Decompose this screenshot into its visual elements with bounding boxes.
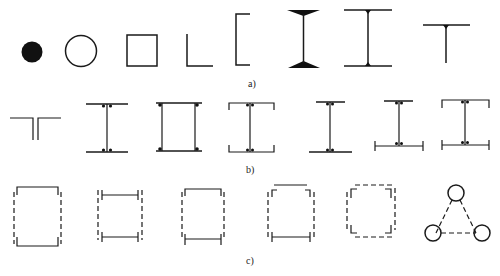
double-angle-t-shape	[10, 118, 61, 140]
row-a: a)	[22, 10, 471, 90]
channel-web-i-shape	[229, 103, 274, 152]
two-i-laced-shape	[98, 190, 142, 242]
row-c-label: c)	[246, 255, 254, 267]
welded-i-shape	[86, 104, 128, 152]
four-angles-laced-shape	[347, 185, 395, 237]
channel-i-laced-shape	[182, 189, 224, 245]
row-b: b)	[10, 100, 489, 176]
angle-shape	[187, 34, 213, 66]
i-beam-tapered-shape	[287, 10, 320, 68]
three-tube-triangle-shape	[425, 185, 490, 241]
angles-mixed-laced-shape	[268, 185, 314, 242]
two-channels-laced-shape	[14, 187, 61, 246]
square-tube-shape	[127, 35, 157, 66]
t-section-shape	[423, 25, 470, 63]
row-b-label: b)	[246, 164, 254, 176]
i-both-lipped-shape	[442, 100, 489, 150]
welded-box-shape	[156, 103, 202, 151]
row-a-label: a)	[248, 78, 256, 90]
cross-section-diagram: a)	[0, 0, 500, 276]
channel-shape	[236, 14, 250, 65]
i-bottom-lipped-shape	[375, 101, 423, 151]
i-beam-welded-shape	[344, 10, 392, 66]
solid-circle-shape	[22, 42, 43, 63]
hollow-circle-shape	[66, 36, 97, 67]
row-c: c)	[14, 185, 490, 267]
unequal-i-shape	[309, 102, 352, 152]
